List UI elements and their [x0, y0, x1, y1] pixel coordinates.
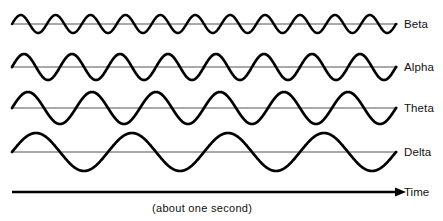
time-axis-label: Time	[404, 187, 429, 199]
eeg-brainwave-figure: Beta Alpha Theta Delta Time (about one s…	[0, 0, 443, 221]
waveform-group	[12, 15, 396, 171]
band-label-theta: Theta	[404, 103, 434, 115]
baseline-group	[12, 24, 398, 152]
band-label-alpha: Alpha	[404, 62, 434, 74]
band-label-beta: Beta	[404, 19, 428, 31]
duration-caption: (about one second)	[152, 203, 252, 214]
band-label-delta: Delta	[404, 147, 431, 159]
wave-canvas	[0, 0, 443, 221]
time-axis-group	[12, 187, 406, 196]
